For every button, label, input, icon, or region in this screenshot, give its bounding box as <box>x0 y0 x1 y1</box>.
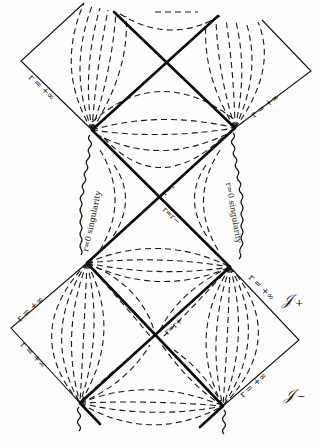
lower-left-region <box>11 263 104 403</box>
penrose-diagram: r = +∞ r = +∞ r = +∞ r = +∞ r = +∞ r = +… <box>0 0 320 447</box>
label-r-inf-mid-left: r = +∞ <box>15 294 46 323</box>
upper-left-region <box>21 3 126 130</box>
label-singularity-left: r=0 singularity <box>81 190 103 253</box>
upper-right-scri-boundary <box>235 20 311 128</box>
horizon-r-plus-right <box>80 267 230 403</box>
central-upper-region <box>87 119 235 281</box>
label-scri-plus-sub: + <box>295 297 303 308</box>
top-region <box>92 12 235 130</box>
label-r-inf-lower-right: r = +∞ <box>238 370 269 399</box>
upper-left-scri-boundary <box>21 3 92 130</box>
label-r-minus-lower: r=r− <box>161 205 182 226</box>
central-lower-region <box>78 263 231 434</box>
label-r-inf-mid-right: r = +∞ <box>247 272 277 302</box>
label-r-minus-upper: r=r− <box>160 177 182 198</box>
labels: r = +∞ r = +∞ r = +∞ r = +∞ r = +∞ r = +… <box>15 72 306 404</box>
label-r-inf-lower-left: r = +∞ <box>19 339 49 369</box>
label-r-inf-upper-left: r = +∞ <box>27 72 57 102</box>
label-scri-minus-sub: − <box>297 391 305 402</box>
label-r-inf-upper-right: r = +∞ <box>249 92 281 120</box>
